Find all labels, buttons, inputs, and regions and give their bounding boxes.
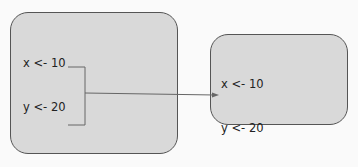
connector-arrow <box>85 93 215 95</box>
bracket-icon <box>68 67 85 125</box>
connector-layer <box>0 0 358 167</box>
arrowhead-icon <box>212 93 219 98</box>
